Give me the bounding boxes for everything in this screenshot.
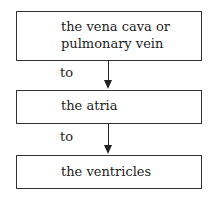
node-ventricles: the ventricles [16, 155, 202, 189]
arrow-shaft-1 [108, 60, 109, 81]
arrow-shaft-2 [108, 123, 109, 145]
node-label-line2: pulmonary vein [61, 36, 163, 52]
arrow-head-icon [104, 145, 112, 154]
edge-label-to-1: to [60, 65, 73, 80]
node-atria: the atria [16, 90, 202, 124]
edge-label-to-2: to [60, 129, 73, 144]
node-label: the ventricles [61, 164, 151, 180]
node-label-line1: the vena cava or [61, 19, 170, 35]
node-label: the atria [61, 98, 118, 114]
arrow-head-icon [104, 80, 112, 89]
node-vena-cava-pulmonary-vein: the vena cava or pulmonary vein [16, 11, 202, 61]
